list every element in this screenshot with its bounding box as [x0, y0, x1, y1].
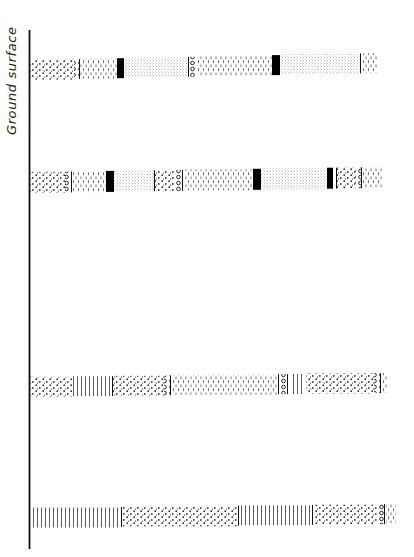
line-segment	[312, 505, 313, 525]
dashes-segment	[72, 171, 106, 192]
coarse-dots-segment	[123, 506, 237, 526]
stratigraphic-diagram	[0, 0, 414, 557]
line-segment	[360, 53, 361, 73]
line-segment	[182, 170, 183, 191]
circles-segment	[164, 376, 170, 396]
layer-1	[30, 53, 378, 79]
line-segment	[121, 507, 122, 527]
layer-3	[30, 373, 388, 397]
line-segment	[336, 168, 337, 189]
circles-segment	[279, 374, 286, 394]
layer-4	[33, 504, 396, 527]
fine-dots-segment	[280, 54, 360, 74]
circles-segment	[65, 172, 71, 193]
black-segment	[253, 169, 261, 190]
circles-segment	[355, 167, 361, 188]
line-segment	[238, 506, 239, 526]
soil-layers	[30, 53, 396, 527]
line-segment	[71, 171, 72, 192]
line-segment	[384, 504, 385, 524]
ground-surface-label: Ground surface	[4, 26, 19, 135]
line-segment	[112, 376, 113, 396]
vlines-segment	[73, 376, 111, 396]
circles-segment	[190, 57, 197, 77]
dashes-segment	[184, 169, 253, 190]
black-segment	[327, 168, 333, 189]
coarse-dots-segment	[155, 170, 175, 191]
fine-dots-segment	[114, 171, 154, 192]
dashes-segment	[363, 167, 382, 188]
vlines-segment	[33, 508, 121, 528]
dashes-segment	[362, 53, 378, 73]
circles-segment	[378, 504, 384, 524]
dashes-segment	[197, 56, 272, 76]
coarse-dots-segment	[306, 374, 374, 394]
fine-dots-segment	[124, 58, 188, 78]
black-segment	[272, 55, 280, 75]
circles-segment	[74, 59, 79, 79]
dashes-segment	[382, 373, 388, 393]
coarse-dots-segment	[113, 376, 164, 396]
dashes-segment	[172, 375, 277, 395]
line-segment	[361, 167, 362, 188]
coarse-dots-segment	[30, 60, 74, 80]
coarse-dots-segment	[30, 377, 72, 397]
circles-segment	[175, 170, 182, 191]
line-segment	[287, 374, 288, 394]
coarse-dots-segment	[337, 168, 355, 189]
circles-segment	[374, 373, 380, 393]
fine-dots-segment	[261, 168, 327, 189]
line-segment	[79, 59, 80, 79]
vlines-segment	[240, 505, 311, 525]
dashes-segment	[386, 504, 396, 524]
line-segment	[170, 375, 171, 395]
line-segment	[188, 57, 189, 77]
black-segment	[106, 171, 114, 192]
line-segment	[380, 373, 381, 393]
coarse-dots-segment	[30, 172, 65, 193]
layer-2	[30, 167, 382, 193]
black-segment	[117, 58, 124, 78]
coarse-dots-segment	[314, 505, 378, 525]
vlines-segment	[290, 374, 305, 394]
line-segment	[278, 374, 279, 394]
line-segment	[154, 170, 155, 191]
dashes-segment	[80, 59, 117, 79]
